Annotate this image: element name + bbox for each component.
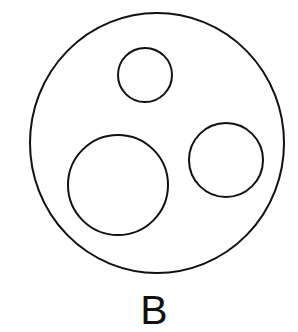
medium-right-circle bbox=[189, 123, 263, 197]
diagram-label-text: B bbox=[140, 287, 167, 332]
circles-diagram bbox=[0, 0, 298, 332]
diagram-label: B bbox=[0, 290, 298, 331]
large-bottom-left-circle bbox=[68, 135, 168, 235]
outer-circle bbox=[30, 13, 284, 273]
small-top-circle bbox=[118, 48, 172, 102]
